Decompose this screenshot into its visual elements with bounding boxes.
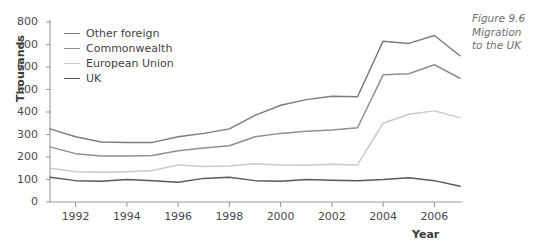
y-axis-tick-label: 100 xyxy=(8,173,38,186)
legend-item-label: European Union xyxy=(86,57,174,70)
series-line-uk xyxy=(50,177,460,186)
legend-line-icon xyxy=(64,63,80,64)
x-axis-tick-label: 2002 xyxy=(312,210,352,223)
x-axis-tick-label: 1994 xyxy=(107,210,147,223)
y-axis-tick-label: 300 xyxy=(8,128,38,141)
chart-legend: Other foreignCommonwealthEuropean UnionU… xyxy=(64,26,174,86)
x-axis-tick-label: 2000 xyxy=(261,210,301,223)
legend-item[interactable]: Commonwealth xyxy=(64,41,174,56)
legend-item-label: Commonwealth xyxy=(86,42,172,55)
x-axis-tick-label: 2004 xyxy=(363,210,403,223)
x-axis-tick-label: 2006 xyxy=(414,210,454,223)
y-axis-tick-label: 400 xyxy=(8,105,38,118)
y-axis-tick-label: 800 xyxy=(8,15,38,28)
x-axis-tick-label: 1998 xyxy=(209,210,249,223)
legend-item[interactable]: European Union xyxy=(64,56,174,71)
y-axis-tick-label: 600 xyxy=(8,60,38,73)
y-axis-tick-label: 0 xyxy=(8,195,38,208)
legend-item[interactable]: Other foreign xyxy=(64,26,174,41)
legend-item-label: Other foreign xyxy=(86,27,159,40)
legend-line-icon xyxy=(64,48,80,49)
legend-line-icon xyxy=(64,33,80,34)
y-axis-tick-label: 200 xyxy=(8,150,38,163)
x-axis-tick-label: 1996 xyxy=(158,210,198,223)
legend-item[interactable]: UK xyxy=(64,71,174,86)
legend-item-label: UK xyxy=(86,72,101,85)
x-axis-tick-label: 1992 xyxy=(56,210,96,223)
figure-migration-to-uk: Thousands Year Figure 9.6 Migration to t… xyxy=(0,0,533,249)
y-axis-tick-label: 700 xyxy=(8,38,38,51)
y-axis-tick-label: 500 xyxy=(8,83,38,96)
legend-line-icon xyxy=(64,78,80,79)
